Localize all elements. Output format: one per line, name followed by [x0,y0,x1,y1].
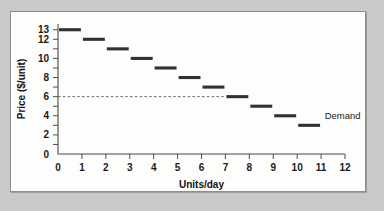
x-tick-label: 1 [79,162,85,173]
y-tick-label: 10 [38,53,50,64]
x-tick-label: 7 [223,162,229,173]
y-tick-label: 6 [43,91,49,102]
chart-panel: 131210864200123456789101112DemandUnits/d… [10,11,366,192]
y-axis-title: Price ($/unit) [16,59,27,120]
demand-step-chart: 131210864200123456789101112DemandUnits/d… [11,12,365,191]
y-tick-label: 12 [38,34,50,45]
y-tick-label: 2 [43,129,49,140]
x-tick-label: 4 [151,162,157,173]
demand-curve-label: Demand [325,110,361,121]
x-tick-label: 6 [199,162,205,173]
x-axis-title: Units/day [179,179,224,190]
x-tick-label: 0 [55,162,61,173]
x-tick-label: 10 [292,162,304,173]
x-tick-label: 9 [270,162,276,173]
y-tick-label: 4 [43,110,49,121]
x-tick-label: 5 [175,162,181,173]
y-tick-label: 0 [43,149,49,160]
x-tick-label: 2 [103,162,109,173]
y-tick-label: 8 [43,72,49,83]
x-tick-label: 12 [339,162,351,173]
x-tick-label: 11 [316,162,327,173]
x-tick-label: 8 [247,162,253,173]
figure-root: 131210864200123456789101112DemandUnits/d… [0,0,384,211]
chart-axes [58,24,345,154]
x-tick-label: 3 [127,162,133,173]
